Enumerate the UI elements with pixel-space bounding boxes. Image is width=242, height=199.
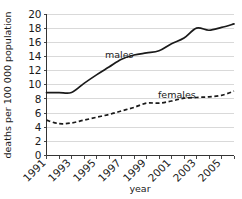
x-tick-label: 2003: [171, 156, 198, 183]
x-tick-label: 2001: [146, 156, 173, 183]
x-tick-labels: 19911993199519971999200120032005: [21, 156, 223, 183]
y-tick-label: 14: [28, 50, 42, 62]
y-tick-label: 2: [35, 135, 42, 147]
series-line-males: [47, 24, 235, 93]
x-tick-label: 1999: [121, 156, 148, 183]
series-line-females: [47, 91, 235, 124]
x-tick-label: 1995: [71, 156, 98, 183]
x-axis-title: year: [129, 183, 150, 194]
y-tick-labels: 02468101214161820: [28, 8, 42, 162]
x-tick-label: 1991: [21, 156, 48, 183]
y-tick-label: 20: [28, 8, 41, 20]
x-tick-label: 1997: [96, 156, 123, 183]
chart-figure: 02468101214161820 1991199319951997199920…: [0, 0, 242, 199]
series-label-females: females: [158, 89, 196, 100]
y-tick-label: 6: [35, 107, 42, 119]
y-tick-label: 16: [28, 36, 42, 48]
series-label-males: males: [105, 49, 134, 60]
x-tick-label: 1993: [46, 156, 73, 183]
y-tick-label: 12: [28, 64, 41, 76]
y-tick-label: 8: [35, 93, 42, 105]
y-tick-label: 10: [28, 78, 41, 90]
y-tick-label: 4: [35, 121, 42, 133]
x-tick-label: 2005: [196, 156, 223, 183]
y-axis-title: deaths per 100 000 population: [2, 11, 13, 158]
y-tick-label: 18: [28, 22, 41, 34]
line-chart: 02468101214161820 1991199319951997199920…: [0, 0, 242, 199]
